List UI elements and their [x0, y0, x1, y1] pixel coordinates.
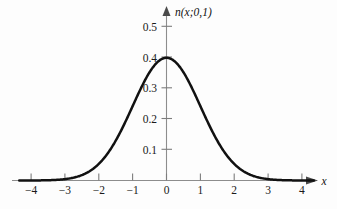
x-tick-label: 4 — [299, 184, 305, 196]
x-tick-label: −1 — [127, 184, 139, 196]
y-axis-label: n(x;0,1) — [175, 6, 212, 19]
y-tick-label: 0.1 — [143, 144, 158, 156]
x-tick-label: 3 — [265, 184, 271, 196]
x-tick-label: −4 — [25, 184, 37, 196]
y-tick-label: 0.4 — [143, 52, 158, 64]
plot-canvas: −4−3−2−101234 0.10.20.30.40.5 x n(x;0,1) — [0, 0, 337, 209]
y-axis-up-arrow-icon — [163, 6, 171, 16]
y-axis-tick-labels: 0.10.20.30.40.5 — [143, 21, 158, 156]
x-axis-tick-labels: −4−3−2−101234 — [25, 184, 305, 196]
x-tick-label: 0 — [164, 184, 170, 196]
y-tick-label: 0.3 — [143, 82, 158, 94]
x-tick-label: −2 — [93, 184, 105, 196]
y-tick-label: 0.5 — [143, 21, 158, 33]
x-tick-label: 2 — [231, 184, 237, 196]
y-tick-label: 0.2 — [143, 113, 158, 125]
normal-distribution-figure: −4−3−2−101234 0.10.20.30.40.5 x n(x;0,1) — [0, 0, 337, 209]
x-tick-label: −3 — [59, 184, 71, 196]
x-axis-label: x — [320, 175, 327, 187]
x-tick-label: 1 — [197, 184, 203, 196]
